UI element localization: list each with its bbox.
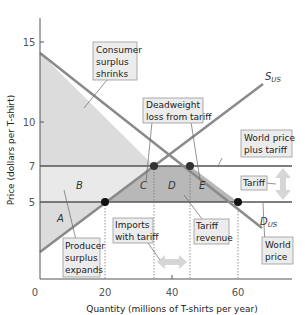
imports-with-tariff-annotation: Imports with tariff	[113, 218, 159, 243]
tariff-chart: 15 10 7 5 0 20 40 60 Quantity (millions …	[0, 0, 305, 315]
svg-text:shrinks: shrinks	[96, 69, 129, 79]
point-q20-p5	[101, 198, 109, 206]
svg-text:Consumer: Consumer	[96, 45, 142, 55]
svg-text:Imports: Imports	[115, 220, 150, 230]
svg-text:expands: expands	[65, 265, 103, 275]
world-price-plus-tariff-annotation: World price plus tariff	[241, 130, 296, 157]
area-label-b: B	[76, 180, 83, 191]
imports-arrow-icon	[157, 255, 187, 269]
y-tick-5: 5	[29, 197, 35, 208]
y-axis-label: Price (dollars per T-shirt)	[6, 95, 16, 206]
deadweight-loss-annotation: Deadweight loss from tariff	[143, 98, 212, 123]
x-axis-label: Quantity (millions of T-shirts per year)	[86, 304, 257, 314]
y-tick-15: 15	[23, 37, 36, 48]
x-tick-0: 0	[32, 287, 38, 298]
y-tick-7: 7	[29, 161, 35, 172]
svg-text:with tariff: with tariff	[115, 232, 159, 242]
svg-text:World: World	[265, 240, 291, 250]
point-q45-p7	[186, 162, 194, 170]
svg-text:price: price	[265, 252, 288, 262]
svg-text:surplus: surplus	[65, 253, 98, 263]
svg-text:loss from tariff: loss from tariff	[146, 112, 212, 122]
area-label-d: D	[168, 180, 176, 191]
point-q60-p5	[234, 198, 242, 206]
svg-text:World price: World price	[244, 133, 296, 143]
consumer-surplus-annotation: Consumer surplus shrinks	[93, 42, 142, 80]
tariff-arrow-icon	[275, 168, 291, 200]
svg-text:plus tariff: plus tariff	[244, 145, 288, 155]
svg-text:Deadweight: Deadweight	[146, 100, 201, 110]
area-label-e: E	[199, 180, 206, 191]
y-tick-10: 10	[23, 117, 36, 128]
tariff-annotation: Tariff	[241, 176, 267, 190]
x-tick-20: 20	[99, 287, 112, 298]
point-q35-p7	[150, 162, 158, 170]
svg-text:revenue: revenue	[196, 233, 233, 243]
tariff-revenue-annotation: Tariff revenue	[194, 219, 233, 244]
producer-surplus-annotation: Producer surplus expands	[63, 238, 105, 277]
x-tick-60: 60	[232, 287, 245, 298]
svg-text:Tariff: Tariff	[195, 221, 219, 231]
supply-label: SUS	[265, 71, 281, 84]
svg-text:Producer: Producer	[65, 241, 105, 251]
area-label-a: A	[56, 213, 64, 224]
x-tick-40: 40	[166, 287, 179, 298]
svg-text:Tariff: Tariff	[242, 178, 266, 188]
svg-text:surplus: surplus	[96, 57, 129, 67]
world-price-annotation: World price	[262, 237, 293, 264]
